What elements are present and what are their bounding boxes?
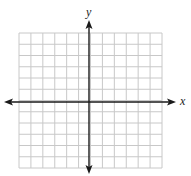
x-axis-label: x <box>180 95 185 107</box>
coordinate-plane <box>0 0 191 176</box>
y-axis-label: y <box>86 6 91 18</box>
grid-lines <box>19 33 162 168</box>
